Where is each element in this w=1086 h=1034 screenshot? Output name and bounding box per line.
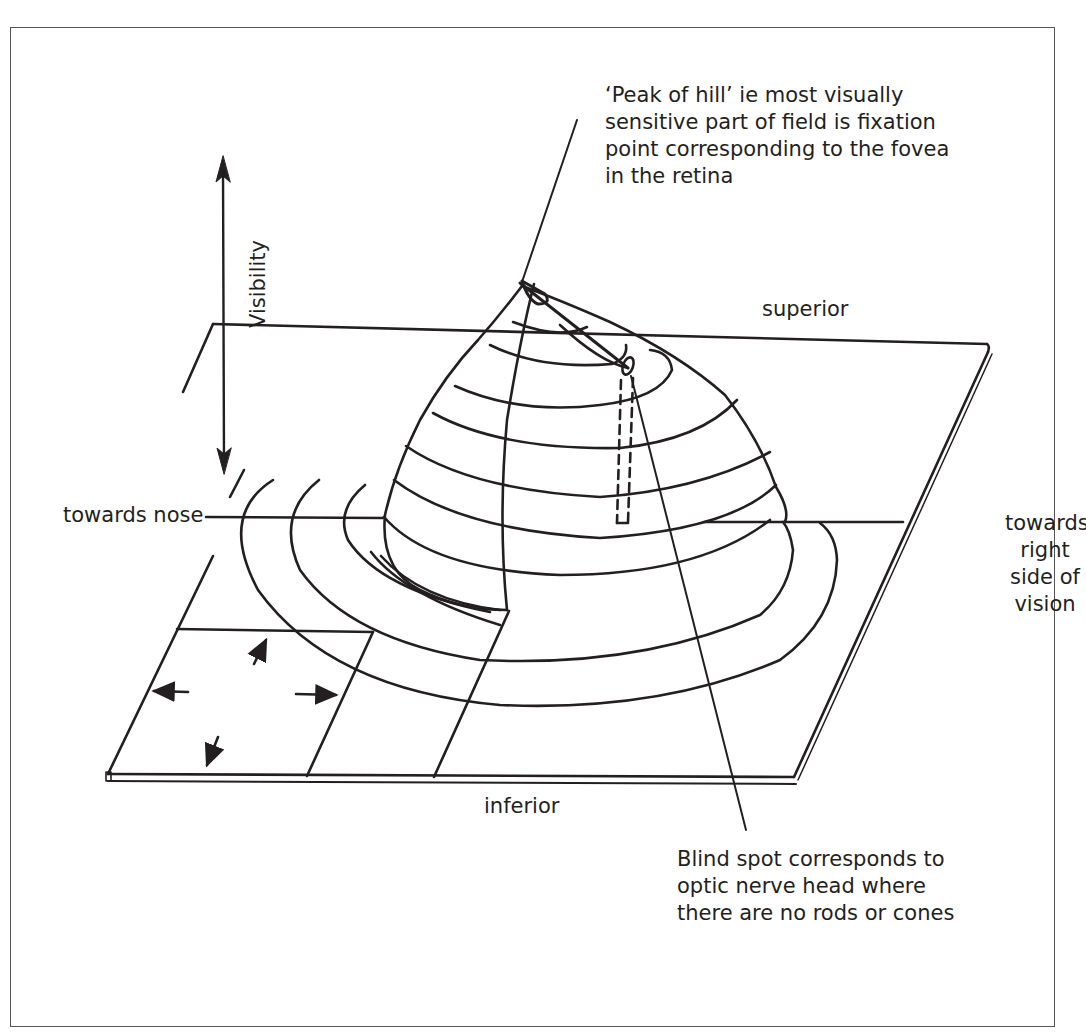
blind-spot-annotation-line: there are no rods or cones: [677, 900, 954, 927]
towards-right-line: towards: [1005, 510, 1085, 537]
blind-spot-annotation-line: optic nerve head where: [677, 873, 954, 900]
blind-spot-annotation: Blind spot corresponds to optic nerve he…: [677, 846, 954, 927]
inset-arrow-up-icon: [254, 640, 266, 664]
inset-square: [154, 629, 373, 776]
blind-spot-annotation-line: Blind spot corresponds to: [677, 846, 954, 873]
peak-annotation: ‘Peak of hill’ ie most visually sensitiv…: [605, 82, 949, 190]
inferior-label: inferior: [484, 793, 559, 820]
inset-arrow-down-icon: [207, 737, 218, 765]
visibility-axis-label: Visibility: [245, 240, 272, 328]
visibility-arrow-icon: [216, 156, 231, 474]
peak-annotation-line: sensitive part of field is fixation: [605, 109, 949, 136]
inset-arrow-right-icon: [296, 694, 336, 695]
superior-label: superior: [762, 296, 848, 323]
inset-arrow-left-icon: [154, 691, 188, 692]
peak-annotation-line: ‘Peak of hill’ ie most visually: [605, 82, 949, 109]
peak-annotation-line: point corresponding to the fovea: [605, 136, 949, 163]
peak-annotation-line: in the retina: [605, 163, 949, 190]
towards-right-line: vision: [1005, 591, 1085, 618]
towards-right-line: right: [1005, 537, 1085, 564]
towards-right-line: side of: [1005, 564, 1085, 591]
base-plane: [106, 324, 992, 784]
towards-nose-label: towards nose: [63, 502, 203, 529]
towards-right-label: towards right side of vision: [1005, 510, 1085, 618]
